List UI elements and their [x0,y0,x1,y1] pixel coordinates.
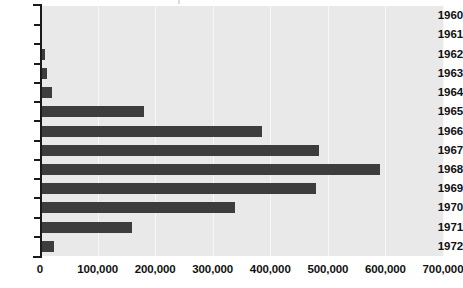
y-axis-cap-top [33,4,42,6]
y-axis-tick [34,43,41,45]
bar [40,202,235,213]
bar [40,145,319,156]
bar [40,222,132,233]
y-axis-tick [34,101,41,103]
y-axis-tick [34,159,41,161]
y-axis-cap-bottom [33,256,42,258]
y-axis-tick [34,217,41,219]
top-artifact-mark [178,0,180,4]
y-axis-tick-label: 1970 [431,201,463,214]
bar-chart: 1960196119621963196419651966196719681969… [0,0,463,288]
x-axis-tick-label: 200,000 [135,262,176,276]
y-axis-tick [34,120,41,122]
gridline [270,6,271,256]
y-axis-tick-label: 1960 [431,9,463,22]
y-axis-tick-label: 1962 [431,48,463,61]
y-axis-tick [34,178,41,180]
y-axis-tick [34,24,41,26]
x-axis-tick-label: 300,000 [192,262,233,276]
bar [40,183,316,194]
x-axis-tick-label: 500,000 [307,262,348,276]
y-axis-tick-label: 1971 [431,221,463,234]
y-axis-tick-label: 1963 [431,67,463,80]
y-axis-line [40,4,42,258]
y-axis-tick [34,140,41,142]
gridline [385,6,386,256]
x-axis-tick-label: 700,000 [423,262,463,276]
gridline [328,6,329,256]
y-axis-tick [34,236,41,238]
bar [40,106,144,117]
y-axis-tick-label: 1965 [431,105,463,118]
y-axis-tick-label: 1969 [431,182,463,195]
y-axis-tick-label: 1972 [431,240,463,253]
y-axis-tick [34,82,41,84]
y-axis-tick-label: 1967 [431,144,463,157]
y-axis-tick-label: 1966 [431,125,463,138]
x-axis-tick-label: 600,000 [365,262,406,276]
bar [40,164,380,175]
plot-area [40,6,443,256]
bar [40,241,54,252]
y-axis-tick-label: 1968 [431,163,463,176]
y-axis-tick [34,63,41,65]
y-axis-tick [34,197,41,199]
y-axis-tick-label: 1961 [431,28,463,41]
x-axis-tick-label: 400,000 [250,262,291,276]
y-axis-tick-label: 1964 [431,86,463,99]
bar [40,126,262,137]
x-axis-tick-label: 100,000 [77,262,118,276]
x-axis-tick-label: 0 [37,262,43,276]
